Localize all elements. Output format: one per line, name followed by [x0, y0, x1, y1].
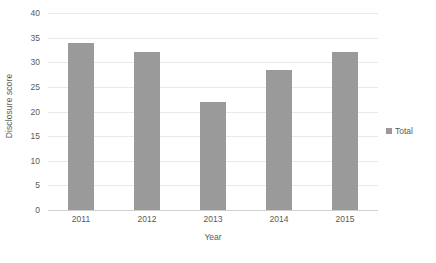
square-marker-icon: [386, 128, 392, 134]
bar-2014[interactable]: [266, 70, 292, 210]
bar-2013[interactable]: [200, 102, 226, 210]
y-axis-tick-label: 35: [6, 33, 40, 43]
legend-item-label: Total: [395, 126, 413, 136]
y-axis-tick-label: 10: [6, 156, 40, 166]
plot-area: [48, 13, 378, 210]
y-axis-tick-label: 20: [6, 107, 40, 117]
x-axis-tick-label: 2014: [249, 214, 309, 224]
bar-2015[interactable]: [332, 52, 358, 210]
y-axis-tick-label: 25: [6, 82, 40, 92]
legend: Total: [386, 126, 413, 136]
y-axis-tick-label: 40: [6, 8, 40, 18]
x-axis-tick-label: 2012: [117, 214, 177, 224]
bar-2011[interactable]: [68, 43, 94, 210]
x-axis-tick-label: 2011: [51, 214, 111, 224]
y-axis-tick-label: 5: [6, 180, 40, 190]
bar-chart: Disclosure score 4035302520151050 201120…: [0, 0, 436, 263]
bars-group: [48, 13, 378, 210]
x-axis-tick-labels: 20112012201320142015: [48, 214, 378, 230]
x-axis-title-label: Year: [204, 232, 221, 242]
y-axis-tick-label: 30: [6, 57, 40, 67]
y-axis-tick-label: 0: [6, 205, 40, 215]
y-axis-tick-label: 15: [6, 131, 40, 141]
bar-2012[interactable]: [134, 52, 160, 210]
x-axis-title: Year: [48, 232, 378, 242]
y-axis-tick-labels: 4035302520151050: [0, 13, 44, 210]
x-axis-tick-label: 2013: [183, 214, 243, 224]
gridline: [48, 210, 378, 211]
x-axis-tick-label: 2015: [315, 214, 375, 224]
